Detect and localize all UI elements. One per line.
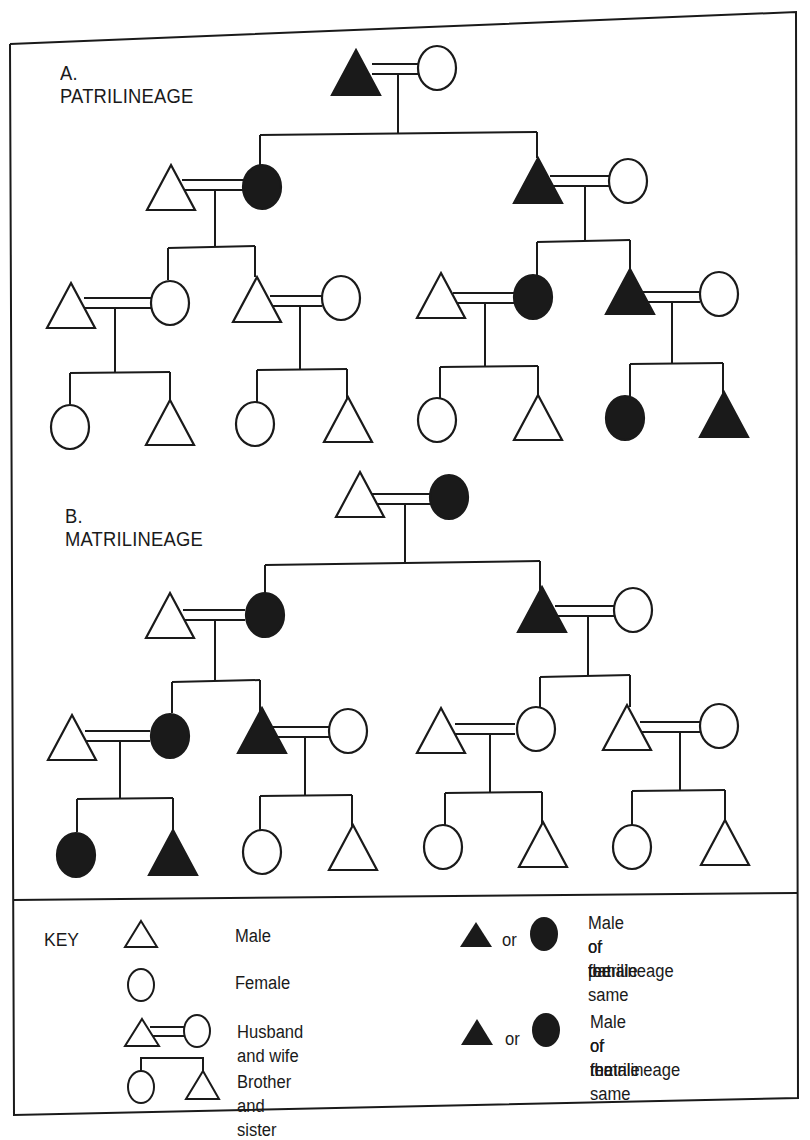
b-gen4-open-circle [243,830,281,874]
b-gen4-open-triangle [701,820,749,865]
a-gen2-wife-open-circle [609,159,647,203]
a-gen4-open-circle [236,402,274,446]
a-gen4-open-triangle [146,400,194,445]
b-gen3-open-circle [700,704,738,748]
a-gen3-open-circle [700,272,738,316]
key-title: KEY [44,928,79,952]
a-gen4-filled-circle [606,396,644,440]
a-gen4-open-triangle [324,397,372,442]
b-gen4-open-triangle [329,825,377,870]
key-matrilineage-line-3: matrilineage [590,1058,680,1082]
key-symbols [125,917,560,1103]
b-gen4-filled-triangle [149,830,197,875]
key-label-brother-sister: Brother and sister [237,1070,291,1140]
b-gen4-open-triangle [519,822,567,867]
b-gen2-husband-filled-triangle [518,587,566,632]
a-gen3-open-triangle [417,273,465,318]
key-matrilineage-filled-circle-icon [532,1013,560,1047]
section-b-title: B. MATRILINEAGE [65,505,203,551]
b-gen3-open-triangle [417,708,465,753]
key-brother-sister-icon [128,1058,219,1103]
key-label-husband-wife: Husband and wife [237,1020,303,1068]
key-divider [13,893,797,900]
key-matrilineage-filled-triangle-icon [461,1019,493,1045]
b-gen3-filled-triangle [238,708,286,753]
b-gen3-filled-circle [151,714,189,758]
a-gen3-open-circle [151,281,189,325]
key-patrilineage-line-3: patrilineage [588,959,674,983]
key-or-matrilineage: or [505,1027,520,1051]
key-patrilineage-filled-triangle-icon [460,922,492,947]
a-gen4-open-circle [418,398,456,442]
section-a-tree [70,64,723,405]
section-a-title: A. PATRILINEAGE [60,62,193,108]
b-gen4-open-circle [613,825,651,869]
b-gen3-open-circle [517,707,555,751]
a-gen1-husband-filled-triangle [332,50,380,95]
b-gen1-wife-filled-circle [430,475,468,519]
a-gen4-open-circle [51,405,89,449]
b-gen4-filled-circle [57,833,95,877]
b-gen4-open-circle [424,825,462,869]
key-patrilineage-filled-circle-icon [530,917,558,951]
a-gen3-open-triangle [47,283,95,328]
key-male-icon [125,921,157,947]
key-female-icon [128,969,154,1001]
key-husband-wife-icon [125,1015,210,1047]
a-gen2-wife-filled-circle [243,165,281,209]
b-gen3-open-circle [329,709,367,753]
a-gen2-husband-filled-triangle [514,158,562,203]
a-gen4-filled-triangle [700,392,748,437]
a-gen4-open-triangle [514,395,562,440]
key-label-male: Male [235,924,271,948]
key-or-patrilineage: or [502,928,517,952]
key-label-female: Female [235,971,290,995]
a-gen2-husband-open-triangle [147,165,195,210]
b-gen2-wife-filled-circle [246,593,284,637]
a-gen3-open-triangle [233,277,281,322]
b-gen2-wife-open-circle [614,588,652,632]
a-gen1-wife-open-circle [418,46,456,90]
b-gen3-open-triangle [603,705,651,750]
b-gen3-open-triangle [48,715,96,760]
a-gen3-filled-circle [514,275,552,319]
a-gen3-open-circle [322,276,360,320]
b-gen2-husband-open-triangle [146,593,194,638]
